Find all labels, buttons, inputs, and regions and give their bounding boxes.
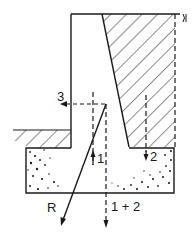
force-3-label: 3 <box>57 89 64 104</box>
break-mark-icon <box>183 14 186 22</box>
backfill-soil <box>100 14 186 148</box>
front-ground <box>13 130 71 148</box>
force-arrow-1 <box>91 92 96 165</box>
force-arrow-3 <box>60 101 106 107</box>
resultant-label: R <box>47 200 56 215</box>
retaining-wall-diagram: 3 1 2 1 + 2 R <box>0 0 192 236</box>
sum-1-2-label: 1 + 2 <box>111 199 140 214</box>
combined-force-arrow <box>104 104 109 228</box>
force-2-label: 2 <box>150 149 157 164</box>
force-1-label: 1 <box>97 151 104 166</box>
